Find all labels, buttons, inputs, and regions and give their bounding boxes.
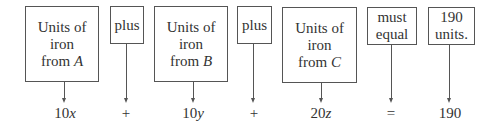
term-b-coef: 10 [182, 105, 197, 121]
box-units-iron-from-a: Units of iron from A [25, 6, 99, 82]
must-equal-line-1: must [376, 9, 408, 26]
box-units-iron-from-b: Units of iron from B [154, 6, 228, 82]
plus-1-label: plus [114, 17, 139, 34]
plus-2-label: plus [242, 17, 267, 34]
connector-must-equal [391, 45, 392, 98]
box-plus-2: plus [237, 6, 272, 44]
expr-term-b: 10y [173, 104, 213, 122]
term-a-var: x [69, 105, 76, 121]
total-line-2: units. [435, 26, 468, 43]
box-c-line-3: from [298, 54, 331, 70]
box-c-var: C [331, 54, 341, 70]
expr-op-equals: = [371, 104, 411, 122]
connector-a [64, 82, 65, 98]
expr-op-plus-2: + [234, 104, 274, 122]
expr-total: 190 [430, 104, 470, 122]
box-a-line-3: from [41, 53, 74, 69]
connector-total [449, 45, 450, 98]
total-line-1: 190 [435, 9, 468, 26]
arrowhead-must-equal-icon [389, 98, 393, 103]
box-plus-1: plus [110, 6, 144, 44]
box-b-line-3: from [170, 53, 203, 69]
expr-term-a: 10x [45, 104, 85, 122]
expr-term-c: 20z [301, 104, 341, 122]
arrowhead-b-icon [191, 98, 195, 103]
connector-plus-2 [253, 44, 254, 98]
box-must-equal: must equal [367, 7, 417, 45]
box-c-line-2: iron [295, 37, 344, 54]
arrowhead-a-icon [62, 98, 66, 103]
box-a-line-1: Units of [38, 19, 87, 36]
connector-b [193, 82, 194, 98]
box-b-line-1: Units of [167, 19, 216, 36]
connector-c [321, 83, 322, 98]
box-a-line-2: iron [38, 36, 87, 53]
connector-plus-1 [126, 44, 127, 98]
term-c-coef: 20 [311, 105, 326, 121]
term-c-var: z [326, 105, 332, 121]
box-units-iron-from-c: Units of iron from C [282, 7, 357, 83]
must-equal-line-2: equal [376, 26, 408, 43]
box-b-line-2: iron [167, 36, 216, 53]
term-a-coef: 10 [54, 105, 69, 121]
box-a-var: A [74, 53, 83, 69]
arrowhead-plus-2-icon [251, 98, 255, 103]
arrowhead-total-icon [447, 98, 451, 103]
expr-op-plus-1: + [106, 104, 146, 122]
arrowhead-plus-1-icon [124, 98, 128, 103]
box-b-var: B [203, 53, 212, 69]
box-c-line-1: Units of [295, 20, 344, 37]
box-190-units: 190 units. [428, 7, 475, 45]
arrowhead-c-icon [319, 98, 323, 103]
term-b-var: y [197, 105, 204, 121]
